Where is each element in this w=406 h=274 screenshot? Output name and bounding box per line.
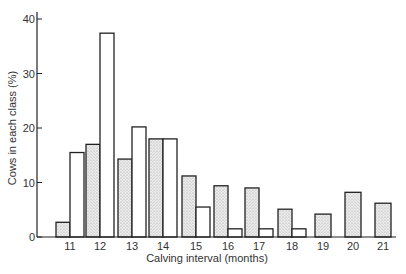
bar-stippled-11 — [56, 222, 70, 237]
y-ticks: 010203040 — [23, 13, 42, 243]
y-tick-label: 20 — [23, 122, 35, 134]
x-tick-label: 17 — [253, 240, 265, 252]
y-tick-label: 10 — [23, 177, 35, 189]
bar-stippled-14 — [149, 139, 163, 237]
y-tick-label: 30 — [23, 68, 35, 80]
bar-open-15 — [196, 207, 210, 237]
bar-stippled-21 — [375, 203, 391, 237]
bar-open-11 — [70, 153, 84, 237]
bar-stippled-19 — [315, 214, 331, 237]
x-tick-label: 19 — [317, 240, 329, 252]
bar-stippled-17 — [245, 188, 259, 237]
x-tick-label: 16 — [222, 240, 234, 252]
x-tick-label: 15 — [190, 240, 202, 252]
bar-open-16 — [228, 229, 242, 237]
bar-open-18 — [292, 229, 306, 237]
bar-stippled-12 — [86, 144, 100, 237]
bar-stippled-13 — [118, 159, 132, 237]
x-tick-label: 21 — [377, 240, 389, 252]
x-tick-label: 14 — [157, 240, 169, 252]
bar-open-17 — [259, 229, 273, 237]
bar-stippled-18 — [278, 209, 292, 237]
bar-open-13 — [132, 127, 146, 237]
bar-stippled-16 — [214, 186, 228, 237]
x-tick-label: 18 — [286, 240, 298, 252]
bar-chart: 010203040 1112131415161718192021 Calving… — [0, 0, 406, 274]
bar-stippled-20 — [345, 192, 361, 237]
y-axis-title: Cows in each class (%) — [6, 71, 18, 185]
y-tick-label: 0 — [29, 231, 35, 243]
y-tick-label: 40 — [23, 13, 35, 25]
bar-stippled-15 — [182, 176, 196, 237]
x-ticks: 1112131415161718192021 — [64, 240, 389, 252]
bars-group — [56, 33, 391, 237]
x-tick-label: 20 — [347, 240, 359, 252]
x-tick-label: 13 — [126, 240, 138, 252]
x-tick-label: 11 — [64, 240, 75, 252]
x-axis-title: Calving interval (months) — [146, 252, 268, 264]
bar-open-14 — [163, 139, 177, 237]
bar-open-12 — [100, 33, 114, 237]
x-tick-label: 12 — [94, 240, 106, 252]
